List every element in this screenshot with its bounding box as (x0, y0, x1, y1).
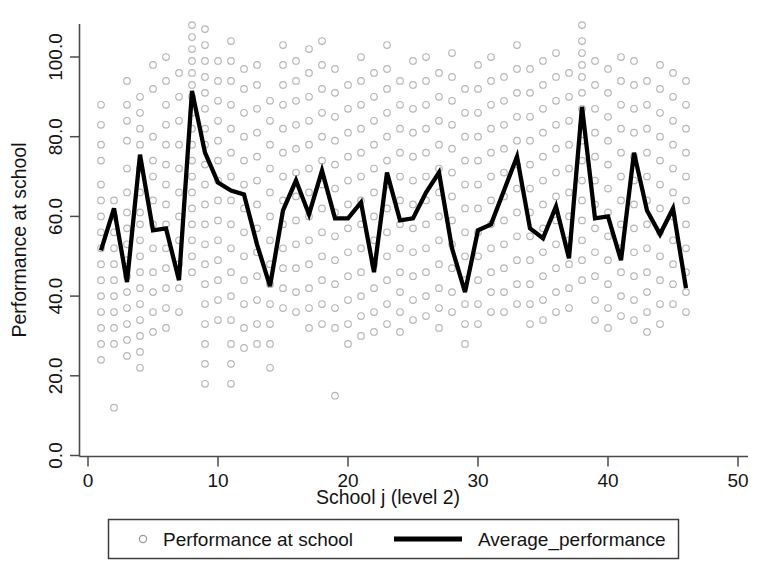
x-tick-label: 10 (207, 470, 228, 491)
y-axis-title: Performance at school (8, 142, 30, 337)
x-tick-label: 30 (467, 470, 488, 491)
y-tick-label: 100.0 (45, 33, 66, 81)
y-tick-label: 60.0 (45, 198, 66, 235)
x-tick-label: 50 (727, 470, 748, 491)
x-tick-label: 40 (597, 470, 618, 491)
chart-canvas: 0.020.040.060.080.0100.0 01020304050 Sch… (0, 0, 771, 581)
performance-scatter-chart: 0.020.040.060.080.0100.0 01020304050 Sch… (0, 0, 771, 581)
y-tick-label: 20.0 (45, 357, 66, 394)
y-tick-label: 0.0 (45, 442, 66, 468)
y-tick-label: 80.0 (45, 118, 66, 155)
chart-legend: Performance at school Average_performanc… (109, 520, 679, 559)
x-axis-title: School j (level 2) (316, 486, 460, 508)
y-tick-label: 40.0 (45, 278, 66, 315)
legend-label-scatter: Performance at school (163, 529, 353, 550)
x-tick-label: 0 (83, 470, 94, 491)
legend-label-line: Average_performance (478, 529, 666, 551)
